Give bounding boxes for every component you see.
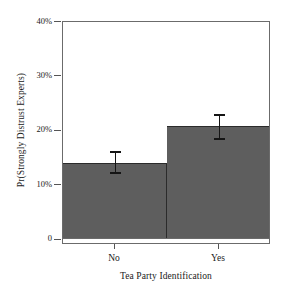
x-tick-mark-no	[114, 244, 115, 249]
plot-area	[62, 21, 270, 239]
y-tick-mark-20	[54, 130, 61, 131]
y-tick-mark-10	[54, 184, 61, 185]
y-tick-label-10: 10%	[24, 180, 52, 189]
y-tick-label-40: 40%	[24, 17, 52, 26]
bar-no	[62, 163, 167, 238]
error-bar-cap-bottom	[110, 172, 121, 174]
x-tick-label-no: No	[84, 252, 144, 264]
bar-chart-figure: Pr(Strongly Distrust Experts) 40% 30% 20…	[0, 0, 294, 299]
y-tick-mark-30	[54, 75, 61, 76]
error-bar-cap-bottom	[214, 138, 225, 140]
error-bar-cap-top	[110, 151, 121, 153]
x-axis-title: Tea Party Identification	[62, 270, 270, 282]
y-tick-label-30: 30%	[24, 71, 52, 80]
bar-yes	[167, 126, 270, 238]
x-axis-line	[62, 243, 270, 244]
x-axis-left-end	[62, 239, 63, 244]
y-axis-tick-labels: 40% 30% 20% 10% 0	[24, 0, 52, 299]
error-bar-cap-top	[214, 114, 225, 116]
error-bar-yes	[219, 114, 220, 139]
x-axis-right-end	[269, 239, 270, 244]
y-tick-mark-40	[54, 21, 61, 22]
error-bar-no	[115, 151, 116, 174]
x-tick-mark-yes	[218, 244, 219, 249]
y-tick-mark-0	[54, 239, 61, 240]
y-tick-label-0: 0	[24, 234, 52, 243]
y-tick-label-20: 20%	[24, 125, 52, 134]
x-tick-label-yes: Yes	[188, 252, 248, 264]
